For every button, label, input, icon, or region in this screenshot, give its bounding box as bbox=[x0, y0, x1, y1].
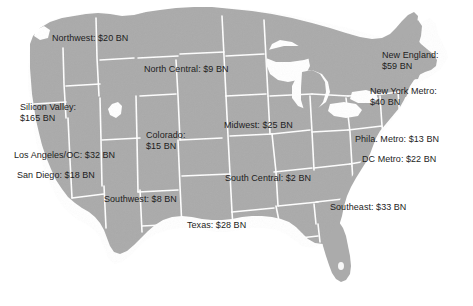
region-label-southwest: Southwest: $8 BN bbox=[104, 194, 177, 205]
region-label-los-angeles-oc: Los Angeles/OC: $32 BN bbox=[14, 150, 115, 161]
region-label-southeast: Southeast: $33 BN bbox=[330, 202, 406, 213]
regional-investment-map: Northwest: $20 BNNorth Central: $9 BNSil… bbox=[0, 0, 473, 306]
region-label-new-york-metro: New York Metro: $40 BN bbox=[370, 86, 437, 108]
region-label-north-central: North Central: $9 BN bbox=[144, 64, 229, 75]
region-label-south-central: South Central: $2 BN bbox=[225, 173, 311, 184]
region-label-san-diego: San Diego: $18 BN bbox=[17, 170, 95, 181]
region-label-silicon-valley: Silicon Valley: $165 BN bbox=[20, 102, 76, 124]
region-label-dc-metro: DC Metro: $22 BN bbox=[362, 154, 436, 165]
region-label-northwest: Northwest: $20 BN bbox=[52, 33, 128, 44]
region-label-midwest: Midwest: $25 BN bbox=[224, 120, 293, 131]
region-label-colorado: Colorado: $15 BN bbox=[146, 130, 185, 152]
region-label-new-england: New England: $59 BN bbox=[382, 50, 439, 72]
region-label-phila-metro: Phila. Metro: $13 BN bbox=[355, 134, 439, 145]
region-label-texas: Texas: $28 BN bbox=[187, 220, 246, 231]
